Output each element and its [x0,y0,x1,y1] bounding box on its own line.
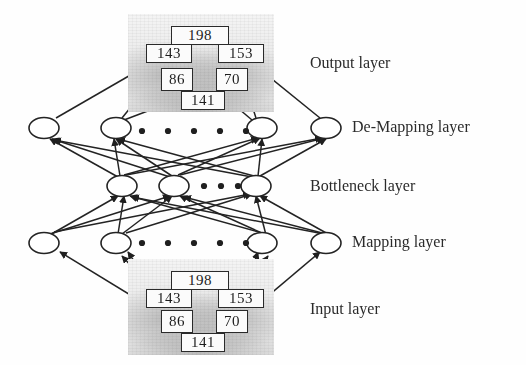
mapping-layer-nodes [29,233,341,254]
bottleneck-layer-nodes [107,176,271,197]
layer-nodes [29,118,341,254]
edges-bottleneck-to-demapping [50,138,326,177]
input-value-box: 153 [218,289,264,308]
demapping-layer-nodes [29,118,341,139]
label-input-layer: Input layer [310,300,380,318]
output-value-box: 70 [216,68,248,91]
edges-mapping-to-bottleneck [48,194,328,236]
label-bottleneck-layer: Bottleneck layer [310,177,415,195]
label-output-layer: Output layer [310,54,390,72]
output-value-box: 86 [161,68,193,91]
label-demapping-layer: De-Mapping layer [352,118,470,136]
output-value-box: 141 [181,91,225,110]
input-value-box: 86 [161,310,193,333]
label-mapping-layer: Mapping layer [352,233,446,251]
output-value-box: 198 [171,26,229,45]
input-value-box: 141 [181,333,225,352]
input-value-box: 198 [171,271,229,290]
figure-canvas: .w { stroke:#232323; stroke-width:1.5; f… [0,0,526,365]
input-value-box: 70 [216,310,248,333]
input-value-box: 143 [146,289,192,308]
output-value-box: 153 [218,44,264,63]
output-value-box: 143 [146,44,192,63]
